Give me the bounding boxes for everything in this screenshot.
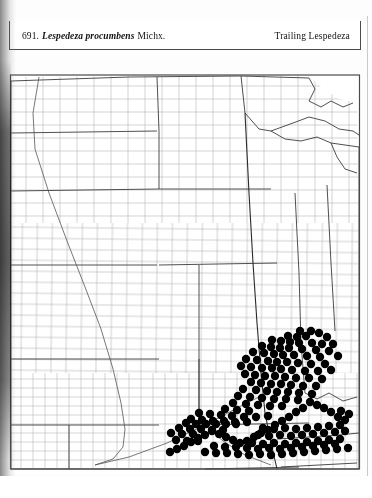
- county-record-dot: [318, 375, 326, 383]
- county-record-dot: [234, 450, 242, 458]
- county-record-dot: [341, 427, 349, 435]
- county-record-dot: [239, 385, 247, 393]
- county-record-dot: [292, 425, 300, 433]
- county-record-dot: [253, 356, 261, 364]
- county-record-dot: [288, 366, 296, 374]
- county-record-dot: [325, 347, 333, 355]
- county-record-dot: [167, 429, 175, 437]
- county-record-dot: [270, 350, 278, 358]
- county-record-dot: [344, 444, 352, 452]
- county-record-dot: [277, 365, 285, 373]
- county-record-dot: [260, 349, 268, 357]
- county-record-dot: [321, 360, 329, 368]
- county-record-dot: [334, 413, 342, 421]
- county-record-dot: [305, 374, 313, 382]
- county-record-dot: [271, 421, 279, 429]
- county-record-dot: [247, 363, 255, 371]
- county-record-dot: [172, 436, 180, 444]
- county-record-dot: [312, 382, 320, 390]
- county-record-dot: [266, 402, 274, 410]
- county-record-dot: [290, 351, 298, 359]
- county-record-dot: [303, 352, 311, 360]
- county-record-dot: [166, 448, 174, 456]
- county-record-dot: [331, 428, 339, 436]
- county-record-dot: [307, 360, 315, 368]
- county-record-dot: [258, 364, 266, 372]
- county-record-dot: [264, 412, 272, 420]
- page-edge-rule: [367, 16, 368, 476]
- atlas-page: 691.Lespedeza procumbensMichx. Trailing …: [0, 0, 372, 498]
- county-record-dot: [243, 418, 251, 426]
- entry-number: 691.: [22, 31, 39, 41]
- county-record-dot: [256, 450, 264, 458]
- county-record-dot: [234, 392, 242, 400]
- county-record-dot: [327, 366, 335, 374]
- county-record-dot: [242, 355, 250, 363]
- county-record-dot: [201, 448, 209, 456]
- county-record-dot: [268, 364, 276, 372]
- county-record-dot: [292, 374, 300, 382]
- county-record-dot: [322, 446, 330, 454]
- county-record-dot: [232, 420, 240, 428]
- county-record-dot: [320, 429, 328, 437]
- county-record-dot: [292, 408, 300, 416]
- county-record-dot: [271, 372, 279, 380]
- county-record-dot: [318, 340, 326, 348]
- distribution-map: [9, 73, 361, 474]
- scan-shadow-top: [0, 0, 372, 20]
- county-record-dot: [333, 445, 341, 453]
- county-record-dot: [263, 387, 271, 395]
- county-record-dot: [278, 450, 286, 458]
- county-record-dot: [315, 329, 323, 337]
- county-record-dot: [267, 451, 275, 459]
- county-record-dot: [294, 396, 302, 404]
- county-record-dot: [314, 367, 322, 375]
- county-record-dot: [323, 333, 331, 341]
- county-record-dot: [278, 402, 286, 410]
- county-record-dot: [306, 398, 314, 406]
- county-record-dot: [212, 449, 220, 457]
- county-record-dot: [311, 447, 319, 455]
- county-record-dot: [178, 430, 186, 438]
- authority-name: Michx.: [135, 31, 166, 41]
- county-record-dot: [294, 359, 302, 367]
- county-record-dot: [249, 348, 257, 356]
- map-canvas: [9, 73, 361, 474]
- county-record-dot: [285, 344, 293, 352]
- county-record-dot: [276, 431, 284, 439]
- county-record-dot: [334, 352, 342, 360]
- county-record-dot: [245, 451, 253, 459]
- species-caption: 691.Lespedeza procumbensMichx.: [22, 31, 165, 41]
- county-record-dot: [300, 448, 308, 456]
- county-record-dot: [241, 370, 249, 378]
- county-record-dot: [247, 378, 255, 386]
- county-record-dot: [283, 358, 291, 366]
- county-record-dot: [257, 379, 265, 387]
- caption-content: 691.Lespedeza procumbensMichx. Trailing …: [9, 21, 361, 50]
- county-record-dot: [314, 423, 322, 431]
- county-record-dot: [289, 449, 297, 457]
- county-record-dot: [308, 390, 316, 398]
- county-record-dot: [302, 332, 310, 340]
- common-name: Trailing Lespedeza: [275, 31, 350, 41]
- page-bottom-margin: [0, 476, 372, 498]
- county-record-dot: [316, 353, 324, 361]
- county-record-dot: [252, 413, 260, 421]
- county-record-dot: [277, 380, 285, 388]
- county-record-dot: [237, 362, 245, 370]
- county-record-dot: [298, 431, 306, 439]
- county-record-dot: [287, 432, 295, 440]
- county-record-dot: [223, 449, 231, 457]
- county-record-dot: [298, 345, 306, 353]
- county-record-dot: [252, 386, 260, 394]
- county-record-dot: [303, 424, 311, 432]
- scientific-name: Lespedeza procumbens: [39, 31, 135, 41]
- county-record-dot: [325, 422, 333, 430]
- county-record-dot: [309, 430, 317, 438]
- county-record-dot: [254, 401, 262, 409]
